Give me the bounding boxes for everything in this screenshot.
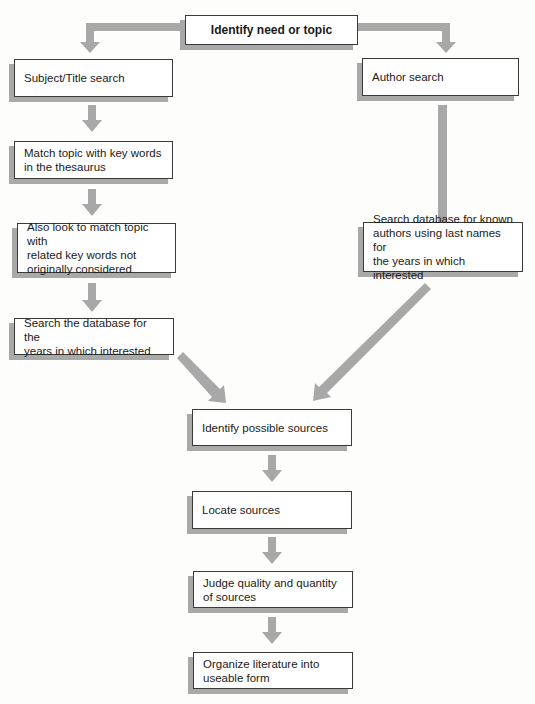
node-label: Subject/Title search [24, 71, 125, 85]
arrow-start-to-subject [80, 23, 184, 53]
node-label: Locate sources [202, 503, 280, 517]
node-subject-title-search: Subject/Title search [14, 59, 173, 97]
node-author-search: Author search [362, 58, 519, 96]
node-locate-sources: Locate sources [192, 491, 352, 529]
node-identify-need: Identify need or topic [185, 15, 358, 45]
node-label: Search database for known authors using … [373, 212, 513, 282]
node-label: Identify possible sources [202, 421, 328, 435]
arrow-searchyears-to-identify [177, 352, 226, 403]
node-related-keywords: Also look to match topic with related ke… [17, 223, 176, 273]
node-label: Judge quality and quantity of sources [203, 576, 337, 604]
node-search-years: Search the database for the years in whi… [14, 318, 174, 355]
arrow-judge-to-organize [262, 617, 282, 644]
arrow-locate-to-judge [262, 537, 282, 564]
arrow-start-to-author [358, 23, 456, 53]
node-judge-sources: Judge quality and quantity of sources [193, 571, 353, 608]
node-match-thesaurus: Match topic with key words in the thesau… [14, 141, 173, 179]
node-label: Organize literature into useable form [203, 657, 319, 685]
flowchart-canvas: Identify need or topic Subject/Title sea… [0, 0, 535, 704]
node-identify-sources: Identify possible sources [192, 409, 352, 446]
arrow-related-to-searchyears [82, 283, 102, 312]
node-label: Match topic with key words in the thesau… [24, 146, 161, 174]
node-label: Identify need or topic [211, 23, 332, 37]
node-search-authors: Search database for known authors using … [363, 222, 523, 272]
arrow-identify-to-locate [262, 455, 282, 482]
node-organize-literature: Organize literature into useable form [193, 652, 353, 689]
node-label: Author search [372, 70, 444, 84]
arrow-match-to-related [82, 189, 102, 216]
arrow-subject-to-match [82, 105, 102, 132]
arrow-searchauthors-to-identify [313, 283, 431, 401]
node-label: Also look to match topic with related ke… [27, 220, 166, 276]
node-label: Search the database for the years in whi… [24, 316, 164, 358]
